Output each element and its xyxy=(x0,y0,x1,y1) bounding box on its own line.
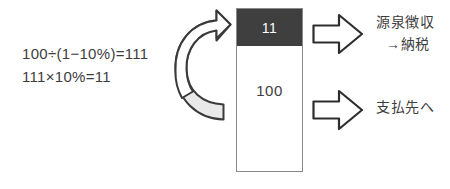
block-arrow-right-icon-payment xyxy=(312,89,364,135)
box-segment-withholding: 11 xyxy=(237,9,302,46)
payment-flow-label-line1: 支払先へ xyxy=(376,99,434,115)
withholding-amount-value: 11 xyxy=(262,20,278,36)
payment-flow-label: 支払先へ xyxy=(376,96,434,118)
payment-amount-value: 100 xyxy=(256,82,283,99)
withholding-flow-label: 源泉徴収 →納税 xyxy=(376,11,434,55)
diagram-canvas: 100÷(1−10%)=111 111×10%=11 11 100 源泉徴収 →… xyxy=(0,0,450,189)
box-segment-payment: 100 xyxy=(237,46,302,171)
curved-gross-up-arrow-icon xyxy=(172,8,232,127)
withholding-flow-label-line1: 源泉徴収 xyxy=(376,14,434,30)
withholding-flow-label-line2: →納税 xyxy=(376,33,434,55)
block-arrow-right-icon-withholding xyxy=(312,13,364,59)
amount-box: 11 100 xyxy=(236,8,303,172)
